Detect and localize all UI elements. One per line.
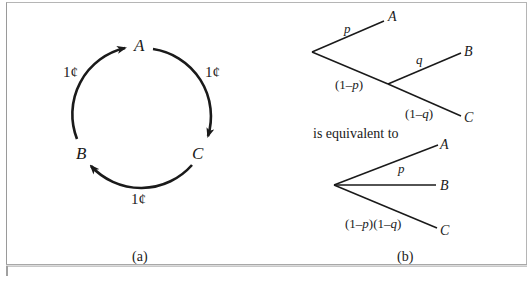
edge-label-c-to-b: 1¢ bbox=[131, 192, 146, 207]
arc-c-to-b bbox=[91, 165, 192, 188]
equivalence-text: is equivalent to bbox=[313, 127, 399, 141]
text-open: (1– bbox=[335, 77, 352, 92]
node-b-label: B bbox=[76, 145, 86, 162]
panel-a-cycle bbox=[72, 48, 211, 188]
var-q: q bbox=[416, 52, 423, 67]
diagram-canvas bbox=[0, 0, 530, 282]
text-close: ) bbox=[429, 106, 433, 121]
caption-b: (b) bbox=[397, 250, 413, 264]
text-open: (1– bbox=[345, 216, 362, 231]
text-close: ) bbox=[359, 77, 363, 92]
arc-b-to-a bbox=[72, 48, 125, 139]
leaf-a-label: A bbox=[440, 138, 449, 152]
edge-label-one-minus-q: (1–q) bbox=[405, 107, 433, 120]
text-open: (1– bbox=[405, 106, 422, 121]
text-close: ) bbox=[397, 216, 401, 231]
edge-label-p: p bbox=[344, 22, 351, 35]
var-p: p bbox=[344, 21, 351, 36]
edge-label-q: q bbox=[416, 53, 423, 66]
panel-b-compound-tree bbox=[312, 21, 461, 116]
leaf-b-label: B bbox=[464, 45, 473, 59]
edge-label-one-minus-p: (1–p) bbox=[335, 78, 363, 91]
var-p: p bbox=[398, 161, 405, 176]
node-c-label: C bbox=[192, 145, 203, 162]
text-mid: )(1– bbox=[369, 216, 391, 231]
leaf-c-label: C bbox=[440, 224, 449, 238]
edge-label-one-minus-p-times-one-minus-q: (1–p)(1–q) bbox=[345, 217, 401, 230]
branch-chance-node-to-b bbox=[388, 53, 461, 84]
edge-label-a-to-c: 1¢ bbox=[205, 65, 220, 80]
caption-a: (a) bbox=[132, 250, 148, 264]
node-a-label: A bbox=[134, 37, 144, 54]
leaf-c-label: C bbox=[464, 111, 473, 125]
arc-a-to-c bbox=[153, 49, 211, 136]
branch-root-to-a bbox=[334, 145, 438, 185]
edge-label-b-to-a: 1¢ bbox=[63, 65, 78, 80]
leaf-b-label: B bbox=[440, 179, 449, 193]
leaf-a-label: A bbox=[388, 10, 397, 24]
edge-label-p: p bbox=[398, 162, 405, 175]
